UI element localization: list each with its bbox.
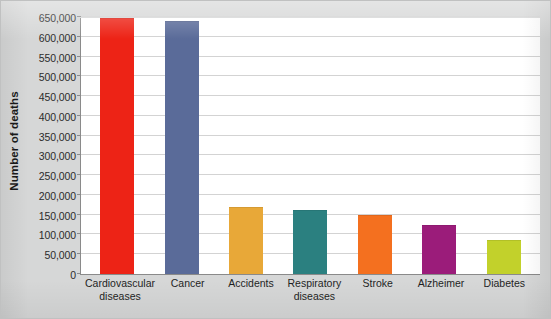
y-axis-tick-label: 400,000 [39, 111, 76, 123]
y-axis-tick-label: 300,000 [39, 150, 76, 162]
bar[interactable] [165, 21, 199, 274]
y-axis-tickmark [77, 16, 81, 17]
y-axis-title: Number of deaths [3, 1, 25, 280]
plot-area [80, 18, 540, 275]
x-axis-category-label: Alzheimer [409, 277, 472, 302]
y-axis-tick-label: 200,000 [39, 190, 76, 202]
bar-slot [343, 18, 407, 274]
bar[interactable] [358, 215, 392, 274]
y-axis-tick-label: 650,000 [39, 12, 76, 24]
y-axis-tick-label: 250,000 [39, 170, 76, 182]
y-axis-title-text: Number of deaths [8, 91, 20, 190]
gridline [81, 16, 540, 17]
bar-slot [472, 18, 536, 274]
bar-slot [214, 18, 278, 274]
x-axis-category-label: Accidents [219, 277, 282, 302]
bar-slot [407, 18, 471, 274]
x-axis-category-label: Cardiovascular diseases [84, 277, 156, 302]
y-axis-tick-label: 500,000 [39, 71, 76, 83]
x-axis-category-labels: Cardiovascular diseasesCancerAccidentsRe… [80, 277, 540, 302]
bar[interactable] [422, 225, 456, 274]
bar[interactable] [229, 207, 263, 274]
bar-slot [278, 18, 342, 274]
y-axis-tick-label: 150,000 [39, 210, 76, 222]
bar-series [81, 18, 540, 274]
bar[interactable] [100, 18, 134, 274]
x-axis-category-label: Diabetes [473, 277, 536, 302]
bar-slot [85, 18, 149, 274]
y-axis-tick-label: 100,000 [39, 229, 76, 241]
y-axis-tick-label: 600,000 [39, 32, 76, 44]
y-axis-tick-labels: 050,000100,000150,000200,000250,000300,0… [23, 1, 80, 280]
y-axis-tick-label: 50,000 [44, 249, 76, 261]
chart-figure: Number of deaths 050,000100,000150,00020… [0, 0, 551, 319]
bar[interactable] [293, 210, 327, 274]
y-axis-tick-label: 550,000 [39, 52, 76, 64]
x-axis-category-label: Stroke [346, 277, 409, 302]
x-axis-category-label: Cancer [156, 277, 219, 302]
y-axis-tick-label: 350,000 [39, 131, 76, 143]
bar[interactable] [487, 240, 521, 274]
y-axis-tick-label: 450,000 [39, 91, 76, 103]
x-axis-category-label: Respiratory diseases [283, 277, 346, 302]
y-axis-tick-label: 0 [70, 269, 76, 281]
bar-slot [149, 18, 213, 274]
